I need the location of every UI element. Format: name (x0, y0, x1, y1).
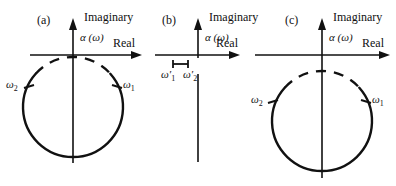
panel-c-real-axis-arrowhead (379, 51, 390, 59)
panel-b-imaginary-axis-arrowhead (194, 18, 202, 30)
panel-b-function-label: α (ω) (205, 32, 229, 43)
panel-b-omega1-prime-subscript: 1 (171, 74, 175, 83)
panel-c-omega1-label: ω1 (372, 94, 384, 108)
panel-c-omega2-label: ω2 (251, 94, 263, 108)
panel-a-function-label: α (ω) (80, 32, 104, 43)
figure-canvas (0, 0, 396, 186)
panel-a-omega2-subscript: 2 (14, 84, 18, 93)
panel-a-imaginary-axis-arrowhead (69, 18, 77, 30)
panel-a-omega1-label: ω1 (123, 79, 135, 93)
panel-a-label: (a) (37, 14, 50, 26)
panel-c-label: (c) (285, 14, 298, 26)
panel-b-omega1-prime-symbol: ω′ (161, 68, 171, 80)
panel-c-function-label: α (ω) (329, 32, 353, 43)
panel-b-label: (b) (162, 14, 176, 26)
panel-b-imaginary-axis-label: Imaginary (209, 11, 258, 23)
panel-b-real-axis-arrowhead (229, 51, 240, 59)
panel-a-imaginary-axis-label: Imaginary (84, 11, 133, 23)
panel-b-omega2-prime-subscript: 2 (193, 74, 197, 83)
panel-c-omega1-subscript: 1 (380, 99, 384, 108)
panel-c-omega1-symbol: ω (372, 93, 380, 105)
panel-b-omega1-prime-label: ω′1 (161, 69, 175, 83)
panel-a-real-axis-label: Real (113, 37, 135, 49)
panel-a-real-axis-arrowhead (131, 51, 142, 59)
panel-a-omega1-subscript: 1 (131, 84, 135, 93)
panel-a-omega2-symbol: ω (6, 78, 14, 90)
panel-a-omega1-symbol: ω (123, 78, 131, 90)
panel-b-omega2-prime-label: ω′2 (183, 69, 197, 83)
panel-b-omega2-prime-symbol: ω′ (183, 68, 193, 80)
panel-c-omega2-subscript: 2 (259, 99, 263, 108)
panel-c-omega1-tick (361, 100, 371, 103)
panel-c-imaginary-axis-arrowhead (318, 18, 326, 30)
complex-plane-figure: (a) Imaginary Real α (ω) ω2 ω1 (b) Imagi… (0, 0, 396, 186)
panel-c-real-axis-label: Real (362, 37, 384, 49)
panel-c-imaginary-axis-label: Imaginary (333, 11, 382, 23)
panel-c-omega2-symbol: ω (251, 93, 259, 105)
panel-a-omega2-label: ω2 (6, 79, 18, 93)
